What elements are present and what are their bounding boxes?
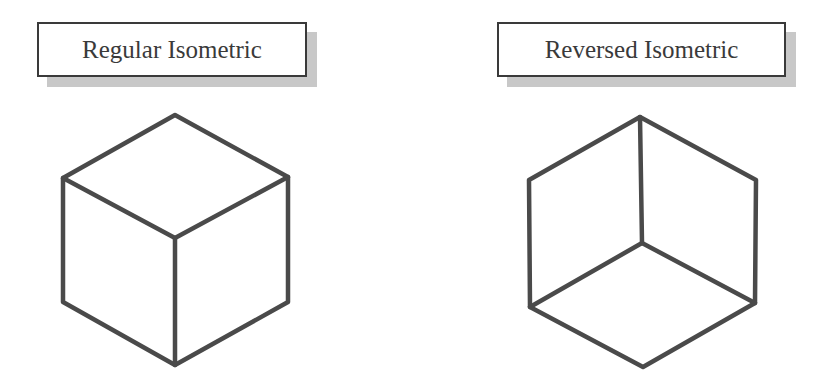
reversed-isometric-cube xyxy=(529,117,756,367)
isometric-diagram xyxy=(0,0,831,388)
regular-isometric-cube xyxy=(63,115,288,365)
cube-inner-edge xyxy=(175,177,288,238)
cube-inner-edge xyxy=(63,178,175,238)
cube-inner-edge xyxy=(640,117,642,243)
cube-inner-edge xyxy=(530,243,642,307)
cube-inner-edge xyxy=(642,243,755,303)
